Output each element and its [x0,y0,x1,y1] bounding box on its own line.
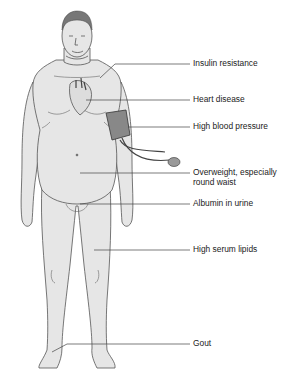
label-heart-disease: Heart disease [193,95,245,105]
label-high-blood-pressure: High blood pressure [193,122,268,132]
metabolic-syndrome-illustration [0,0,282,380]
label-gout: Gout [193,339,211,349]
label-insulin-resistance: Insulin resistance [193,59,258,69]
label-albumin-in-urine: Albumin in urine [193,199,253,209]
label-high-serum-lipids: High serum lipids [193,245,257,255]
label-round-waist: round waist [193,178,236,188]
left-leg [39,185,115,368]
